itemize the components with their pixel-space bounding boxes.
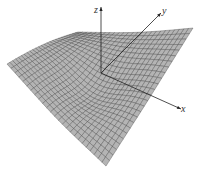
y-axis-label: y bbox=[161, 5, 167, 16]
surface-mesh bbox=[7, 28, 193, 166]
x-axis-label: x bbox=[180, 103, 186, 114]
surface-plot: z y x bbox=[0, 0, 198, 174]
z-arrow-icon bbox=[99, 7, 102, 11]
z-axis-label: z bbox=[93, 4, 98, 15]
